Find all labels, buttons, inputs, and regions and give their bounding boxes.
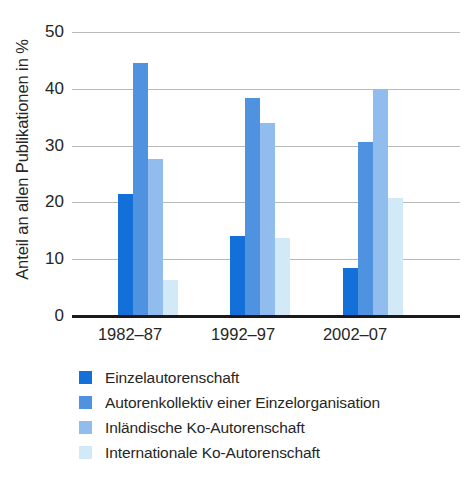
- bar-chart-figure: Anteil an allen Publikationen in % 50 40…: [0, 0, 468, 499]
- y-axis-title-container: Anteil an allen Publikationen in %: [0, 0, 34, 330]
- bar-2002-07-series-2: [358, 142, 373, 316]
- y-axis-title: Anteil an allen Publikationen in %: [13, 10, 32, 310]
- legend: Einzelautorenschaft Autorenkollektiv ein…: [79, 365, 459, 465]
- bar-1982-87-series-1: [118, 194, 133, 316]
- y-tick-50: 50: [30, 22, 64, 42]
- bar-1992-97-series-3: [260, 123, 275, 316]
- bar-1982-87-series-3: [148, 159, 163, 316]
- bar-2002-07-series-1: [343, 268, 358, 316]
- legend-label-1: Einzelautorenschaft: [105, 369, 239, 387]
- bar-1982-87-series-2: [133, 63, 148, 316]
- plot-area: [72, 32, 460, 316]
- bar-group-1992-97: [230, 32, 290, 316]
- legend-item-einzelautorenschaft[interactable]: Einzelautorenschaft: [79, 365, 459, 390]
- bar-1992-97-series-2: [245, 98, 260, 316]
- bar-2002-07-series-3: [373, 89, 388, 316]
- y-tick-10: 10: [30, 249, 64, 269]
- bar-1992-97-series-4: [275, 238, 290, 316]
- x-axis-line: [72, 315, 460, 318]
- x-tick-label-2002-07: 2002–07: [323, 325, 387, 344]
- legend-swatch-icon-1: [79, 371, 92, 384]
- y-tick-0: 0: [30, 306, 64, 326]
- y-tick-30: 30: [30, 136, 64, 156]
- legend-swatch-icon-4: [79, 446, 92, 459]
- legend-label-2: Autorenkollektiv einer Einzelorganisatio…: [105, 394, 380, 412]
- y-tick-40: 40: [30, 79, 64, 99]
- legend-label-4: Internationale Ko-Autorenschaft: [105, 444, 320, 462]
- x-tick-label-1982-87: 1982–87: [98, 325, 162, 344]
- legend-item-internationale-ko-autorenschaft[interactable]: Internationale Ko-Autorenschaft: [79, 440, 459, 465]
- bar-1992-97-series-1: [230, 236, 245, 316]
- y-tick-20: 20: [30, 192, 64, 212]
- legend-swatch-icon-3: [79, 421, 92, 434]
- legend-item-inlaendische-ko-autorenschaft[interactable]: Inländische Ko-Autorenschaft: [79, 415, 459, 440]
- x-tick-label-1992-97: 1992–97: [211, 325, 275, 344]
- bar-group-2002-07: [343, 32, 403, 316]
- legend-swatch-icon-2: [79, 396, 92, 409]
- bar-group-1982-87: [118, 32, 178, 316]
- bar-1982-87-series-4: [163, 280, 178, 316]
- legend-item-autorenkollektiv[interactable]: Autorenkollektiv einer Einzelorganisatio…: [79, 390, 459, 415]
- legend-label-3: Inländische Ko-Autorenschaft: [105, 419, 305, 437]
- bar-2002-07-series-4: [388, 198, 403, 316]
